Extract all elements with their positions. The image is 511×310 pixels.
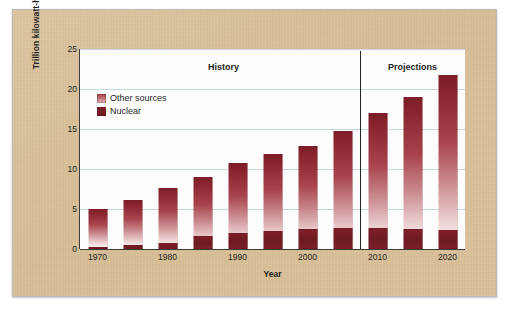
x-tick-1970: 1970 — [88, 252, 107, 262]
bar-segment-other-sources — [438, 75, 457, 249]
bar-1975 — [123, 200, 142, 249]
bar-segment-nuclear — [298, 229, 317, 249]
x-axis-line — [80, 249, 465, 250]
bar-2010 — [368, 113, 387, 249]
y-axis-title: Trillion kilowatt-hours — [31, 0, 41, 89]
bar-segment-nuclear — [193, 236, 212, 249]
x-tick-2010: 2010 — [368, 252, 387, 262]
y-tick-10: 10 — [68, 164, 77, 174]
x-axis-title: Year — [80, 269, 465, 279]
legend-label-other-sources: Other sources — [110, 93, 167, 103]
bar-2015 — [403, 97, 422, 249]
bar-2000 — [298, 146, 317, 249]
legend-swatch-other-sources — [97, 94, 106, 103]
y-tick-20: 20 — [68, 84, 77, 94]
bar-segment-nuclear — [403, 229, 422, 249]
bar-segment-nuclear — [333, 228, 352, 249]
plot-area: History Projections Other sources Nuclea… — [80, 49, 465, 249]
annotation-history: History — [208, 62, 239, 72]
bar-1980 — [158, 188, 177, 249]
x-tick-1980: 1980 — [158, 252, 177, 262]
legend-label-nuclear: Nuclear — [110, 106, 141, 116]
history-projections-divider — [360, 51, 361, 249]
bar-1985 — [193, 177, 212, 249]
x-tick-2020: 2020 — [438, 252, 457, 262]
bar-segment-other-sources — [123, 200, 142, 249]
bar-segment-other-sources — [158, 188, 177, 249]
bar-2005 — [333, 131, 352, 249]
chart-legend: Other sources Nuclear — [97, 92, 167, 118]
gridline-25 — [80, 49, 465, 50]
bar-segment-other-sources — [403, 97, 422, 249]
annotation-projections: Projections — [388, 62, 437, 72]
y-axis-tick-labels: 0510152025 — [59, 49, 77, 249]
y-tick-15: 15 — [68, 124, 77, 134]
legend-swatch-nuclear — [97, 107, 106, 116]
bar-1970 — [88, 209, 107, 249]
bar-2020 — [438, 75, 457, 249]
gridline-20 — [80, 89, 465, 90]
y-tick-0: 0 — [72, 244, 77, 254]
y-tick-5: 5 — [72, 204, 77, 214]
bar-1990 — [228, 163, 247, 249]
bar-segment-nuclear — [228, 233, 247, 249]
x-axis-tick-labels: 197019801990200020102020 — [80, 252, 465, 268]
bar-1995 — [263, 154, 282, 249]
chart-plot-wrapper: Trillion kilowatt-hours 0510152025 Histo… — [79, 49, 465, 259]
bar-segment-other-sources — [88, 209, 107, 249]
bar-segment-nuclear — [368, 228, 387, 249]
legend-item-other-sources: Other sources — [97, 92, 167, 104]
x-tick-2000: 2000 — [298, 252, 317, 262]
screenshot-root: Trillion kilowatt-hours 0510152025 Histo… — [0, 0, 511, 310]
y-tick-25: 25 — [68, 44, 77, 54]
bar-segment-nuclear — [263, 231, 282, 249]
x-tick-1990: 1990 — [228, 252, 247, 262]
bar-segment-nuclear — [438, 230, 457, 249]
legend-item-nuclear: Nuclear — [97, 105, 167, 117]
figure-frame: Trillion kilowatt-hours 0510152025 Histo… — [12, 9, 497, 297]
